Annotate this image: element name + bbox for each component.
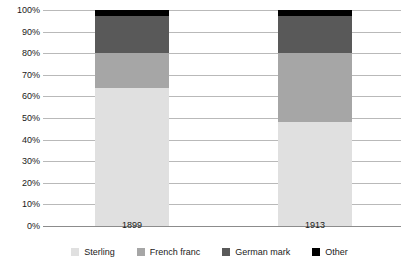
legend-swatch-icon <box>137 248 145 256</box>
y-axis: 100%90%80%70%60%50%40%30%20%10%0% <box>0 0 40 236</box>
bar-segment[interactable] <box>95 88 169 226</box>
bar-segment[interactable] <box>278 122 352 226</box>
legend-swatch-icon <box>312 248 320 256</box>
x-tick-label: 1913 <box>305 220 325 230</box>
legend-item[interactable]: Other <box>312 247 348 257</box>
bar-group[interactable] <box>278 0 352 236</box>
y-tick-label: 40% <box>0 135 40 144</box>
y-tick-label: 30% <box>0 157 40 166</box>
stacked-bar-chart: 100%90%80%70%60%50%40%30%20%10%0% 189919… <box>0 0 419 270</box>
legend-label: French franc <box>150 247 201 257</box>
bar-segment[interactable] <box>278 16 352 53</box>
bar-stack <box>95 0 169 236</box>
y-tick-label: 100% <box>0 6 40 15</box>
bar-group[interactable] <box>95 0 169 236</box>
bar-segment[interactable] <box>278 10 352 16</box>
y-tick-label: 20% <box>0 178 40 187</box>
legend-item[interactable]: German mark <box>222 247 312 257</box>
y-tick-label: 80% <box>0 49 40 58</box>
plot-area: 100%90%80%70%60%50%40%30%20%10%0% 189919… <box>0 0 419 236</box>
y-tick-label: 90% <box>0 27 40 36</box>
y-tick-label: 50% <box>0 114 40 123</box>
legend-swatch-icon <box>71 248 79 256</box>
bar-segment[interactable] <box>278 53 352 122</box>
x-axis: 18991913 <box>43 216 401 238</box>
x-tick-label: 1899 <box>122 220 142 230</box>
y-tick-label: 0% <box>0 222 40 231</box>
legend-label: Sterling <box>84 247 115 257</box>
legend-label: German mark <box>235 247 290 257</box>
y-tick-label: 10% <box>0 200 40 209</box>
bar-segment[interactable] <box>95 16 169 53</box>
bar-stack <box>278 0 352 236</box>
y-tick-label: 70% <box>0 70 40 79</box>
legend-label: Other <box>325 247 348 257</box>
chart-legend: SterlingFrench francGerman markOther <box>0 242 419 262</box>
bar-segment[interactable] <box>95 10 169 16</box>
legend-item[interactable]: French franc <box>137 247 223 257</box>
bars-layer <box>43 0 401 236</box>
bar-segment[interactable] <box>95 53 169 88</box>
y-tick-label: 60% <box>0 92 40 101</box>
legend-item[interactable]: Sterling <box>71 247 137 257</box>
legend-swatch-icon <box>222 248 230 256</box>
